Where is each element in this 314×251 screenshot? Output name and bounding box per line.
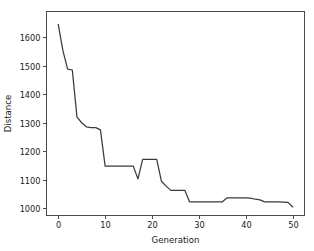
x-tick-label: 30 xyxy=(194,220,204,230)
y-tick-labels: 1000110012001300140015001600 xyxy=(20,33,41,214)
x-tick-label: 0 xyxy=(56,220,61,230)
x-tick-label: 50 xyxy=(288,220,298,230)
y-axis-title: Distance xyxy=(3,95,13,133)
x-tick-labels: 01020304050 xyxy=(56,220,299,230)
chart-figure: 01020304050 1000110012001300140015001600… xyxy=(0,0,314,251)
line-chart: 01020304050 1000110012001300140015001600… xyxy=(0,0,314,251)
y-tick-label: 1400 xyxy=(20,90,41,100)
x-tick-label: 20 xyxy=(147,220,157,230)
x-tick-label: 40 xyxy=(241,220,251,230)
y-tick-label: 1600 xyxy=(20,33,41,43)
y-tick-label: 1200 xyxy=(20,147,41,157)
y-tick-label: 1100 xyxy=(20,176,41,186)
y-tick-label: 1500 xyxy=(20,62,41,72)
y-tick-label: 1000 xyxy=(20,204,41,214)
y-tick-label: 1300 xyxy=(20,119,41,129)
x-tick-label: 10 xyxy=(100,220,110,230)
plot-area-background xyxy=(46,11,305,216)
x-axis-title: Generation xyxy=(152,235,200,245)
